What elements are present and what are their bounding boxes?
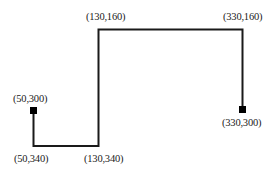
end-endpoint-marker xyxy=(239,106,246,113)
label-point-330-300: (330,300) xyxy=(222,118,261,129)
path-lines xyxy=(0,0,279,172)
label-point-330-160: (330,160) xyxy=(223,12,262,23)
label-point-50-340: (50,340) xyxy=(14,154,48,165)
label-point-130-340: (130,340) xyxy=(84,154,123,165)
start-endpoint-marker xyxy=(30,107,37,114)
label-point-130-160: (130,160) xyxy=(86,12,125,23)
path-diagram: (130,160) (330,160) (50,300) (330,300) (… xyxy=(0,0,279,172)
label-point-50-300: (50,300) xyxy=(13,94,47,105)
connector-path xyxy=(34,30,243,147)
